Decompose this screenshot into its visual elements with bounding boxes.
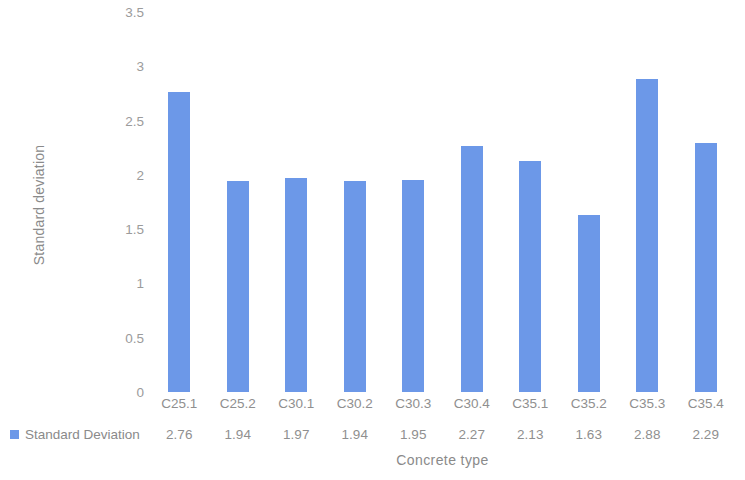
x-axis-category-label: C35.4	[677, 396, 736, 416]
data-table-cell: 1.63	[560, 427, 619, 442]
data-table-cell: 1.97	[267, 427, 326, 442]
bar-slot	[209, 12, 268, 392]
data-table-cell: 2.88	[618, 427, 677, 442]
y-axis-tick-label: 1.5	[104, 222, 144, 237]
bar[interactable]	[636, 79, 658, 392]
data-table-row: Standard Deviation 2.761.941.971.941.952…	[0, 422, 735, 446]
data-table-cell: 2.29	[677, 427, 736, 442]
data-table-values: 2.761.941.971.941.952.272.131.632.882.29	[150, 427, 735, 442]
x-axis-title: Concrete type	[150, 452, 735, 468]
bar[interactable]	[461, 146, 483, 392]
bars-container	[150, 12, 735, 392]
bar[interactable]	[519, 161, 541, 392]
y-axis-tick-label: 0.5	[104, 330, 144, 345]
legend-swatch-icon	[10, 430, 19, 439]
bar-slot	[267, 12, 326, 392]
plot-area	[150, 12, 735, 392]
y-axis-tick-label: 3.5	[104, 5, 144, 20]
bar-chart: Standard deviation 3.532.521.510.50 C25.…	[0, 0, 745, 480]
bar-slot	[150, 12, 209, 392]
legend-label: Standard Deviation	[25, 427, 140, 442]
bar-slot	[501, 12, 560, 392]
bar-slot	[677, 12, 736, 392]
bar[interactable]	[695, 143, 717, 392]
x-axis-category-label: C30.1	[267, 396, 326, 416]
x-axis-category-label: C35.2	[560, 396, 619, 416]
x-axis-category-label: C35.3	[618, 396, 677, 416]
y-axis-title: Standard deviation	[26, 0, 52, 410]
data-table-cell: 1.94	[326, 427, 385, 442]
x-axis-category-label: C35.1	[501, 396, 560, 416]
bar[interactable]	[578, 215, 600, 392]
bar[interactable]	[402, 180, 424, 392]
y-axis-tick-label: 1	[104, 276, 144, 291]
bar[interactable]	[168, 92, 190, 392]
data-table-cell: 2.76	[150, 427, 209, 442]
bar-slot	[560, 12, 619, 392]
y-axis-tick-label: 2	[104, 167, 144, 182]
bar-slot	[618, 12, 677, 392]
data-table-cell: 1.94	[209, 427, 268, 442]
bar[interactable]	[344, 181, 366, 392]
x-axis-category-label: C30.4	[443, 396, 502, 416]
bar-slot	[384, 12, 443, 392]
legend-entry-standard-deviation[interactable]: Standard Deviation	[0, 427, 150, 442]
y-axis-tick-label: 3	[104, 59, 144, 74]
data-table-cell: 2.27	[443, 427, 502, 442]
bar-slot	[443, 12, 502, 392]
data-table-cell: 2.13	[501, 427, 560, 442]
data-table-cell: 1.95	[384, 427, 443, 442]
bar[interactable]	[227, 181, 249, 392]
y-axis-tick-label: 0	[104, 385, 144, 400]
y-axis-tick-labels: 3.532.521.510.50	[104, 0, 144, 480]
x-axis-category-label: C30.3	[384, 396, 443, 416]
x-axis-category-labels: C25.1C25.2C30.1C30.2C30.3C30.4C35.1C35.2…	[150, 396, 735, 416]
bar[interactable]	[285, 178, 307, 392]
y-axis-tick-label: 2.5	[104, 113, 144, 128]
x-axis-category-label: C30.2	[326, 396, 385, 416]
x-axis-category-label: C25.1	[150, 396, 209, 416]
bar-slot	[326, 12, 385, 392]
x-axis-category-label: C25.2	[209, 396, 268, 416]
